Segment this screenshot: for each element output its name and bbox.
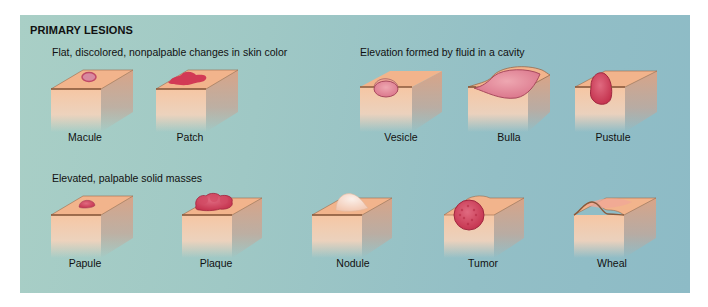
lesion-papule: Papule [45,188,145,298]
lesion-label: Pustule [573,131,653,143]
vesicle-illustration-icon [356,62,456,132]
patch-illustration-icon [150,62,250,132]
lesion-nodule: Nodule [308,188,408,298]
lesion-patch: Patch [150,62,250,172]
lesion-bulla: Bulla [466,62,566,172]
pustule-illustration-icon [573,62,673,132]
lesion-label: Plaque [176,257,256,269]
diagram-title: PRIMARY LESIONS [30,24,133,36]
lesion-label: Wheal [572,257,652,269]
macule-illustration-icon [45,62,145,132]
wheal-illustration-icon [572,188,672,258]
lesion-pustule: Pustule [573,62,673,172]
lesion-label: Papule [45,257,125,269]
plaque-illustration-icon [176,188,276,258]
nodule-illustration-icon [308,188,408,258]
group-label-fluid: Elevation formed by fluid in a cavity [360,46,525,58]
bulla-illustration-icon [466,62,566,132]
lesion-label: Nodule [308,257,398,269]
papule-illustration-icon [45,188,145,258]
lesion-macule: Macule [45,62,145,172]
lesion-label: Macule [45,131,125,143]
lesion-label: Vesicle [356,131,446,143]
lesion-wheal: Wheal [572,188,672,298]
lesion-plaque: Plaque [176,188,276,298]
lesion-label: Patch [150,131,230,143]
lesion-label: Tumor [442,257,524,269]
group-label-flat: Flat, discolored, nonpalpable changes in… [52,46,287,58]
lesion-vesicle: Vesicle [356,62,456,172]
lesion-label: Bulla [466,131,552,143]
lesion-tumor: Tumor [442,188,542,298]
group-label-solid: Elevated, palpable solid masses [52,172,202,184]
tumor-illustration-icon [442,188,542,258]
